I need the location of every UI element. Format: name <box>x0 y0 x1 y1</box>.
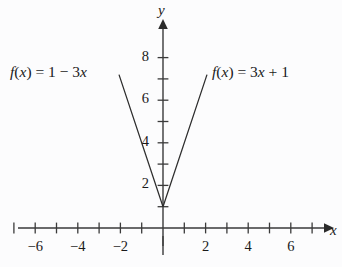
function-label-right: f(x) = 3x + 1 <box>212 63 289 81</box>
axes-group <box>18 19 334 255</box>
coordinate-plane-svg <box>0 0 342 267</box>
y-tick-label: 6 <box>119 90 149 107</box>
y-axis-label: y <box>158 2 165 19</box>
x-tick-label: −2 <box>100 238 140 255</box>
line-f-3x-plus-1 <box>163 75 207 207</box>
x-tick-label: −6 <box>15 238 55 255</box>
y-tick-label: 2 <box>119 175 149 192</box>
x-tick-label: 4 <box>228 238 268 255</box>
graph-figure: f(x) = 1 − 3x f(x) = 3x + 1 y x −6−4−224… <box>0 0 342 267</box>
x-tick-label: −4 <box>58 238 98 255</box>
x-tick-label: 6 <box>271 238 311 255</box>
y-tick-label: 8 <box>119 48 149 65</box>
function-label-left: f(x) = 1 − 3x <box>10 63 87 81</box>
y-tick-label: 4 <box>119 133 149 150</box>
x-axis-label: x <box>330 222 337 239</box>
x-tick-label: 2 <box>186 238 226 255</box>
y-axis-arrow-icon <box>158 19 168 29</box>
